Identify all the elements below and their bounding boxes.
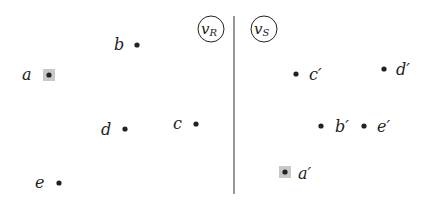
point-dot [293,71,298,76]
point-dot [193,121,198,126]
point-dot [381,66,386,71]
point-dot [46,72,51,77]
point-b: b [114,35,140,54]
point-label: c [173,114,182,133]
svg-text:vS: vS [254,20,269,38]
point-label: e′ [377,117,390,136]
point-label: a′ [298,164,312,183]
point-label: d′ [396,60,410,79]
point-dot [318,123,323,128]
point-dot [361,123,366,128]
node-label-v-r: vR [198,16,224,42]
point-dot [122,126,127,131]
point-dot [282,169,287,174]
point-label: e [35,173,44,192]
svg-text:vR: vR [201,20,217,38]
point-d: d [101,120,128,139]
point-label: b′ [335,117,349,136]
point-label: c′ [309,65,322,84]
node-label-v-s: vS [251,16,277,42]
point-c-prime: c′ [293,65,322,84]
point-a-prime: a′ [279,164,312,183]
point-a: a [22,65,55,84]
point-e-prime: e′ [361,117,390,136]
point-d-prime: d′ [381,60,410,79]
point-dot [56,180,61,185]
point-label: d [101,120,111,139]
point-e: e [35,173,62,192]
point-label: b [114,35,124,54]
mapping-diagram: vR vS a b c d e c′ d′ b′ e′ [0,0,438,207]
point-c: c [173,114,199,133]
point-label: a [22,65,32,84]
point-dot [134,42,139,47]
point-b-prime: b′ [318,117,349,136]
